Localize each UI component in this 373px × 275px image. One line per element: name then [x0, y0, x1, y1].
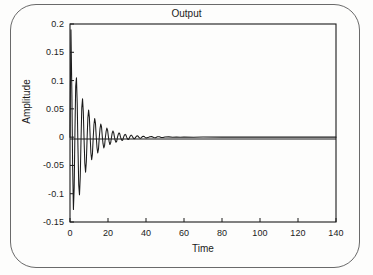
plot-frame-box — [70, 24, 336, 222]
y-axis-tick-label: 0.2 — [20, 19, 64, 29]
x-axis-tick-label: 140 — [328, 228, 343, 238]
x-axis-tick-label: 80 — [217, 228, 227, 238]
x-axis-tick-label: 0 — [67, 228, 72, 238]
plot-area: -0.15-0.1-0.0500.050.10.150.2 0204060801… — [0, 0, 373, 275]
x-axis-tick-label: 60 — [179, 228, 189, 238]
x-axis-tick-label: 40 — [141, 228, 151, 238]
signal-trace-output — [70, 30, 336, 210]
y-axis-tick-label: -0.15 — [20, 217, 64, 227]
y-axis-tick-label: -0.05 — [20, 160, 64, 170]
x-axis-ticks — [70, 218, 336, 222]
x-axis-tick-label: 20 — [103, 228, 113, 238]
figure-root: Output -0.15-0.1-0.0500.050.10.150.2 020… — [0, 0, 373, 275]
y-axis-tick-label: -0.1 — [20, 189, 64, 199]
x-axis-label: Time — [70, 243, 336, 254]
y-axis-tick-label: 0.15 — [20, 47, 64, 57]
y-axis-label: Amplitude — [21, 62, 32, 142]
x-axis-tick-label: 100 — [252, 228, 267, 238]
x-axis-tick-label: 120 — [290, 228, 305, 238]
